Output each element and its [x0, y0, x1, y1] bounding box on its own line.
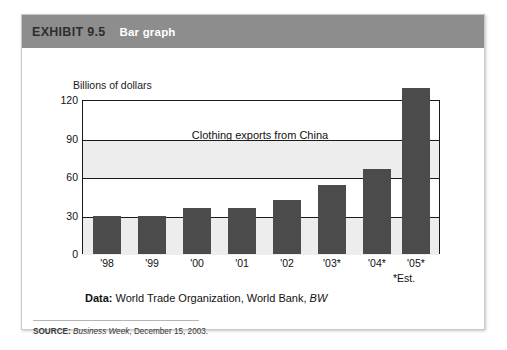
bar-03 — [318, 185, 346, 254]
bar-01 — [228, 208, 256, 254]
x-tick-03: '03* — [312, 257, 352, 269]
chart-body: Billions of dollars 120 90 60 30 0 — [22, 48, 484, 331]
bars-layer — [82, 48, 440, 254]
data-credit-body: World Trade Organization, World Bank, — [113, 292, 310, 304]
x-tick-01: '01 — [222, 257, 262, 269]
exhibit-header: EXHIBIT 9.5 Bar graph — [22, 15, 484, 48]
data-credit: Data: World Trade Organization, World Ba… — [85, 292, 327, 304]
y-tick-0: 0 — [52, 248, 78, 260]
y-tick-90: 90 — [52, 133, 78, 145]
x-tick-02: '02 — [267, 257, 307, 269]
x-tick-00: '00 — [177, 257, 217, 269]
x-tick-99: '99 — [132, 257, 172, 269]
source-lead: SOURCE: — [33, 327, 71, 336]
x-axis-tick-labels: '98 '99 '00 '01 '02 '03* '04* '05* — [82, 257, 440, 273]
bar-04 — [363, 169, 391, 254]
source-divider — [33, 320, 199, 321]
y-tick-30: 30 — [52, 210, 78, 222]
estimate-footnote: *Est. — [393, 272, 415, 284]
exhibit-card: EXHIBIT 9.5 Bar graph Billions of dollar… — [21, 14, 485, 330]
y-tick-120: 120 — [52, 94, 78, 106]
data-credit-italic: BW — [310, 292, 328, 304]
source-line: SOURCE: Business Week, December 15, 2003… — [33, 327, 208, 336]
bar-05 — [402, 88, 430, 254]
bar-02 — [273, 200, 301, 254]
data-credit-lead: Data: — [85, 292, 113, 304]
x-tick-04: '04* — [357, 257, 397, 269]
y-axis-tick-labels: 120 90 60 30 0 — [48, 100, 78, 254]
x-tick-05: '05* — [396, 257, 436, 269]
source-italic: Business Week — [71, 327, 130, 336]
exhibit-number: EXHIBIT 9.5 — [32, 25, 105, 39]
bar-00 — [183, 208, 211, 254]
bar-99 — [138, 216, 166, 255]
exhibit-title: Bar graph — [119, 26, 175, 38]
y-tick-60: 60 — [52, 171, 78, 183]
x-tick-98: '98 — [87, 257, 127, 269]
source-body: , December 15, 2003. — [129, 327, 208, 336]
bar-98 — [93, 216, 121, 255]
